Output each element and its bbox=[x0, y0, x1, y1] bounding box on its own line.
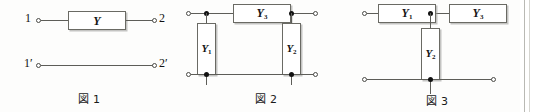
admittance-y3-box: Y3 bbox=[449, 4, 507, 23]
admittance-y2-box: Y2 bbox=[421, 28, 440, 80]
admittance-y2-label: Y2 bbox=[425, 48, 435, 61]
figure-1: 1 Y 2 1′ 2′ 図 1 bbox=[0, 0, 178, 112]
wire-1-to-y bbox=[41, 20, 68, 21]
wire-y1-top-lead bbox=[206, 13, 207, 23]
terminal-2-marker bbox=[152, 18, 157, 23]
junction-bottom-right bbox=[289, 72, 294, 77]
figure-2: Y3 Y1 Y2 図 2 bbox=[178, 0, 354, 112]
terminal-label-1: 1 bbox=[25, 12, 31, 24]
terminal-2-prime-marker bbox=[152, 63, 157, 68]
figure-sheet: 1 Y 2 1′ 2′ 図 1 Y3 Y1 bbox=[0, 0, 534, 112]
admittance-y-label: Y bbox=[93, 15, 100, 27]
wire-bottom-rail bbox=[191, 74, 314, 75]
admittance-y3-label: Y3 bbox=[257, 7, 268, 21]
wire-y-to-2 bbox=[126, 20, 153, 21]
terminal-label-1-prime: 1′ bbox=[24, 57, 33, 69]
figure-2-caption: 図 2 bbox=[178, 90, 354, 106]
terminal-bottom-right-marker bbox=[313, 72, 318, 77]
admittance-y2-label: Y2 bbox=[286, 43, 296, 56]
figure-3-caption: 図 3 bbox=[354, 92, 520, 108]
admittance-y-box: Y bbox=[68, 11, 126, 30]
terminal-label-2: 2 bbox=[159, 12, 165, 24]
admittance-y1-label: Y1 bbox=[402, 7, 413, 21]
wire-y2-top-lead bbox=[430, 13, 431, 28]
admittance-y3-box: Y3 bbox=[233, 4, 291, 23]
terminal-bottom-right-marker bbox=[491, 77, 496, 82]
terminal-label-2-prime: 2′ bbox=[159, 57, 168, 69]
junction-bottom-left bbox=[204, 72, 209, 77]
admittance-y2-box: Y2 bbox=[282, 23, 301, 75]
figure-3: Y1 Y3 Y2 図 3 bbox=[354, 0, 520, 112]
junction-bottom-center bbox=[428, 77, 433, 82]
wire-y2-top-lead bbox=[291, 13, 292, 23]
admittance-y3-label: Y3 bbox=[473, 7, 484, 21]
terminal-top-right-marker bbox=[313, 11, 318, 16]
page-edge-line-inner bbox=[524, 0, 525, 112]
wire-bottom-rail bbox=[41, 65, 153, 66]
admittance-y1-label: Y1 bbox=[201, 43, 211, 56]
page-edge-line-outer bbox=[529, 0, 530, 112]
figure-1-caption: 図 1 bbox=[0, 90, 178, 106]
admittance-y1-box: Y1 bbox=[197, 23, 216, 75]
page-edge bbox=[520, 0, 534, 112]
